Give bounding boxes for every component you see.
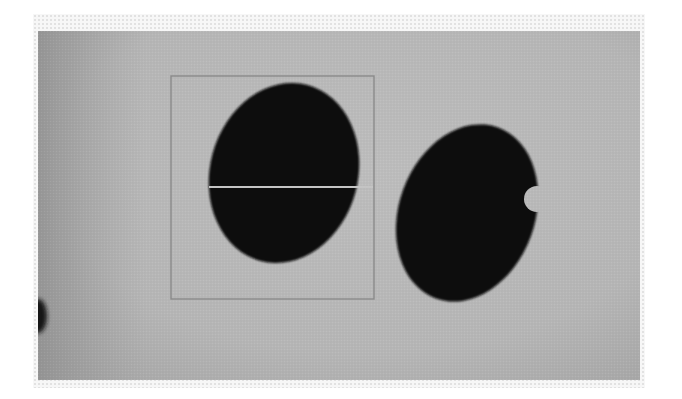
photo-canvas (38, 31, 640, 380)
photo (38, 31, 640, 380)
